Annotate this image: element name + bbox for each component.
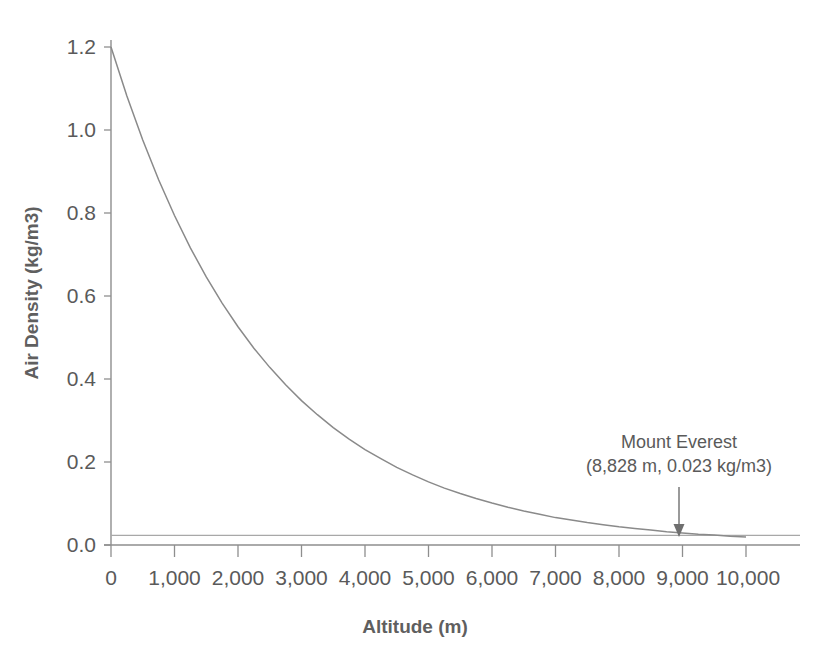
x-tick-label: 2,000 <box>212 566 265 589</box>
chart-svg: 1.2 1.0 0.8 0.6 0.4 0.2 0.0 0 1,000 2 <box>0 0 815 660</box>
air-density-chart: 1.2 1.0 0.8 0.6 0.4 0.2 0.0 0 1,000 2 <box>0 0 815 660</box>
y-tick-label: 1.2 <box>67 35 96 58</box>
x-axis-title: Altitude (m) <box>362 616 468 637</box>
y-tick-label: 0.4 <box>67 367 97 390</box>
x-tick-label: 7,000 <box>529 566 582 589</box>
y-tick-label: 0.8 <box>67 201 96 224</box>
chart-background <box>0 0 815 660</box>
y-tick-label: 0.2 <box>67 450 96 473</box>
x-tick-label: 1,000 <box>148 566 201 589</box>
y-tick-label: 0.6 <box>67 284 96 307</box>
x-tick-label: 3,000 <box>275 566 328 589</box>
annotation-line-1: Mount Everest <box>621 432 737 452</box>
x-tick-label: 0 <box>105 566 117 589</box>
y-axis-title: Air Density (kg/m3) <box>21 206 42 379</box>
y-tick-label: 0.0 <box>67 533 96 556</box>
x-tick-label: 8,000 <box>593 566 646 589</box>
x-tick-label: 10,000 <box>716 566 780 589</box>
x-tick-label: 9,000 <box>656 566 709 589</box>
x-tick-label: 6,000 <box>466 566 519 589</box>
annotation-line-2: (8,828 m, 0.023 kg/m3) <box>586 456 772 476</box>
x-tick-label: 5,000 <box>402 566 455 589</box>
y-tick-label: 1.0 <box>67 118 96 141</box>
x-tick-label: 4,000 <box>339 566 392 589</box>
